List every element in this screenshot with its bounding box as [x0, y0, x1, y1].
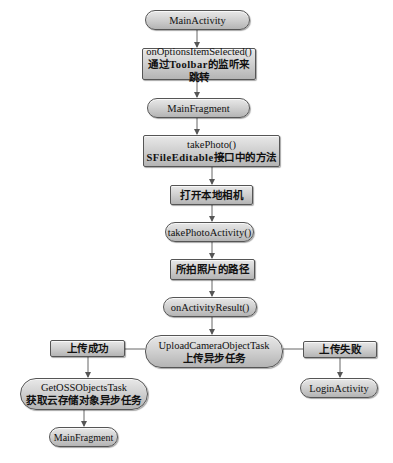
- node-main-fragment: MainFragment: [147, 98, 250, 118]
- node-label: MainFragment: [167, 102, 229, 115]
- node-on-options-item-selected: onOptionsItemSelected() 通过Toolbar的监听来跳转: [142, 48, 256, 80]
- node-label: MainActivity: [169, 14, 226, 27]
- node-label: 打开本地相机: [180, 189, 243, 202]
- node-label: onOptionsItemSelected(): [146, 45, 252, 58]
- node-on-activity-result: onActivityResult(): [163, 297, 257, 317]
- node-main-activity: MainActivity: [145, 10, 250, 30]
- node-take-photo: takePhoto() SFileEditable接口中的方法: [143, 135, 280, 167]
- node-label: takePhoto(): [187, 138, 236, 151]
- node-open-camera: 打开本地相机: [170, 185, 253, 205]
- node-sublabel: SFileEditable接口中的方法: [146, 151, 276, 164]
- node-label: 上传失败: [319, 343, 361, 356]
- node-upload-fail: 上传失败: [303, 341, 377, 358]
- node-label: onActivityResult(): [171, 301, 250, 314]
- node-label: UploadCameraObjectTask: [158, 339, 269, 352]
- node-label: GetOSSObjectsTask: [41, 381, 127, 394]
- node-label: 上传成功: [67, 342, 109, 355]
- node-upload-success: 上传成功: [50, 340, 125, 357]
- node-upload-camera-object-task: UploadCameraObjectTask 上传异步任务: [145, 335, 283, 368]
- node-photo-path: 所拍照片的路径: [170, 259, 255, 280]
- node-sublabel: 获取云存储对象异步任务: [26, 394, 142, 407]
- node-sublabel: 通过Toolbar的监听来跳转: [143, 58, 255, 84]
- node-take-photo-activity: takePhotoActivity(): [165, 222, 254, 242]
- node-sublabel: 上传异步任务: [183, 352, 246, 365]
- node-label: MainFragment: [54, 431, 113, 444]
- node-label: LoginActivity: [309, 382, 369, 395]
- node-label: 所拍照片的路径: [176, 263, 250, 276]
- node-login-activity: LoginActivity: [300, 378, 378, 398]
- node-get-oss-objects-task: GetOSSObjectsTask 获取云存储对象异步任务: [20, 378, 148, 410]
- node-label: takePhotoActivity(): [168, 226, 251, 239]
- node-main-fragment-2: MainFragment: [49, 427, 118, 447]
